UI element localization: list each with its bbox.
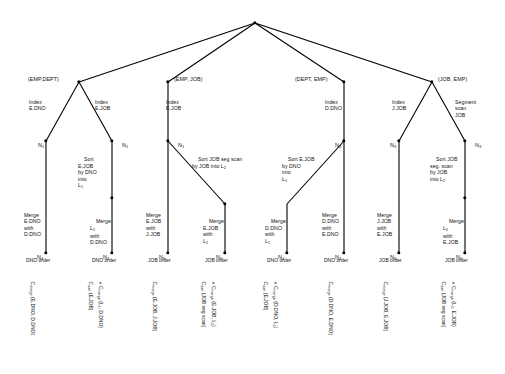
query-plan-diagram: (EMP,DEPT) Index E.DNO Index E.JOB N1 N1… <box>0 0 505 374</box>
access-label-emp-dept-1: Index E.JOB <box>95 99 110 112</box>
node-name-dept-emp-0-top: N2 <box>329 136 341 155</box>
access-label-job-emp-0: Index J.JOB <box>392 99 406 112</box>
access-label-dept-emp-0: Index D.DNO <box>325 99 342 112</box>
op-label-emp-job-0: Merge E.JOB with J.JOB <box>146 212 161 238</box>
op-label-dept-emp-0: Merge D.DNO with L1 <box>265 212 286 252</box>
access-label-emp-job-1: Sort JOB seg scan by JOB into L2 <box>192 150 242 177</box>
order-label-emp-job-0: JOB order <box>148 257 171 263</box>
branch-label-emp-job: (EMP, JOB) <box>174 76 203 82</box>
node-name-emp-job-0-top: N1 <box>172 136 184 155</box>
op-label-job-emp-1: Merge L2 with E.JOB <box>443 212 464 252</box>
access-label-emp-dept-0: Index E.DNO <box>29 99 46 112</box>
order-label-job-emp-1: JOB order <box>445 257 468 263</box>
node-name-job-emp-0-top: N3 <box>384 136 396 155</box>
op-label-emp-dept-0: Merge E.DNO with D.DNO <box>24 212 41 238</box>
cost-label-emp-dept-1b: + Cmerge (L₁, D.DNO) <box>91 276 110 328</box>
op-label-emp-job-1: Merge E.JOB with L2 <box>203 212 224 252</box>
order-label-dept-emp-0: DNO order <box>267 257 291 263</box>
cost-label-emp-job-0: Cmerge (E.JOB, J.JOB) <box>145 276 164 331</box>
order-label-emp-dept-0: DNO order <box>26 257 50 263</box>
cost-label-dept-emp-1: Cmerge (D.DNO, E.DNO) <box>321 276 340 335</box>
order-label-dept-emp-1: DNO order <box>324 257 348 263</box>
branch-label-job-emp: (JOB, EMP) <box>438 76 467 82</box>
cost-label-job-emp-0: Cmerge (J.JOB, E.JOB) <box>376 276 395 331</box>
node-name-emp-dept-0-top: N1 <box>32 136 44 155</box>
op-label-job-emp-0: Merge J.JOB with E.JOB <box>377 212 392 238</box>
branch-label-emp-dept: (EMP,DEPT) <box>28 76 59 82</box>
op-label-dept-emp-1: Merge D.DNO with E.DNO <box>322 212 339 238</box>
sort-label-job-emp-1: Sort JOB seg. scan by JOB into L2 <box>430 150 457 190</box>
order-label-emp-job-1: JOB order <box>205 257 228 263</box>
sort-label-dept-emp-0: Sort E.JOB by DNO into L1 <box>282 150 314 190</box>
branch-label-dept-emp: (DEPT, EMP) <box>295 76 328 82</box>
node-name-emp-dept-1-top: N1 <box>116 136 128 155</box>
cost-label-emp-job-1b: + Cmerge (E.JOB, L₂) <box>204 276 223 327</box>
cost-label-dept-emp-0b: + Cmerge (D.DNO, L₁) <box>266 276 285 328</box>
access-label-emp-job-0: Index E.JOB <box>166 99 181 112</box>
access-label-job-emp-1: Segment scan JOB <box>455 99 476 118</box>
node-name-job-emp-1-top: N3 <box>469 136 481 155</box>
order-label-job-emp-0: JOB order <box>379 257 402 263</box>
order-label-emp-dept-1: DNO order <box>92 257 116 263</box>
op-label-emp-dept-1: Merge L1 with D.DNO <box>90 212 111 252</box>
cost-label-job-emp-1b: + Cmerge (L₂, E.JOB) <box>444 276 463 327</box>
sort-label-emp-dept-1: Sort E.JOB by DNO into L1 <box>78 150 97 197</box>
cost-label-emp-dept-0: Cmerge (E.DNO, D.DNO) <box>23 276 42 335</box>
